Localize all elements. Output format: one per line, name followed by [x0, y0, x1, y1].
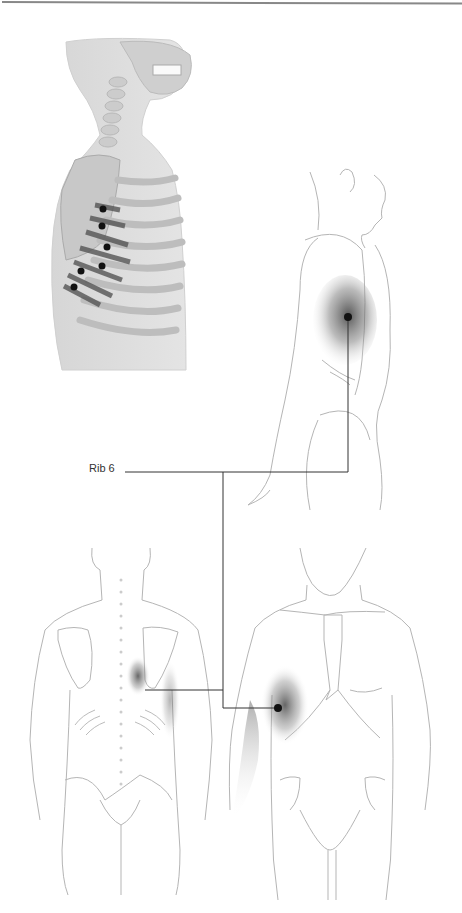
rib-6-label: Rib 6 — [89, 462, 115, 474]
leader-line-lateral — [125, 317, 348, 472]
leader-lines — [0, 0, 462, 913]
trigger-dot-lateral — [344, 313, 352, 321]
leader-line-anterior — [223, 472, 278, 708]
trigger-dot-anterior — [274, 704, 282, 712]
